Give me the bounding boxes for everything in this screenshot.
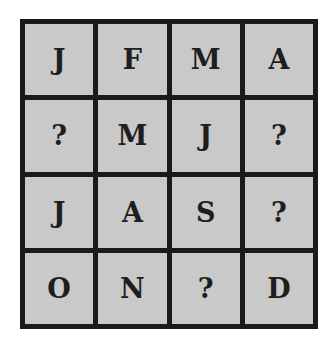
grid-cell-r2c4: ?	[245, 100, 313, 171]
grid-cell-r4c2: N	[98, 253, 166, 324]
grid-cell-r2c3: J	[172, 100, 240, 171]
grid-cell-r1c3: M	[172, 24, 240, 95]
grid-cell-r3c3: S	[172, 177, 240, 248]
grid-cell-r4c3: ?	[172, 253, 240, 324]
grid-cell-r1c2: F	[98, 24, 166, 95]
grid-cell-r2c2: M	[98, 100, 166, 171]
grid-cell-r2c1: ?	[25, 100, 93, 171]
grid-cell-r3c2: A	[98, 177, 166, 248]
grid-cell-r1c1: J	[25, 24, 93, 95]
grid-cell-r4c4: D	[245, 253, 313, 324]
grid-cell-r3c1: J	[25, 177, 93, 248]
grid-cell-r4c1: O	[25, 253, 93, 324]
grid-cell-r1c4: A	[245, 24, 313, 95]
letter-grid: J F M A ? M J ? J A S ? O N ? D	[20, 19, 318, 329]
grid-cell-r3c4: ?	[245, 177, 313, 248]
